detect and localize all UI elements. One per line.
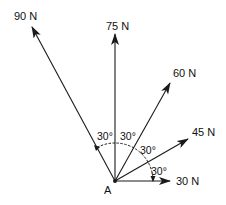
angle-label-60n-75n: 30° [120,131,136,142]
force-label-60n: 60 N [173,68,196,79]
force-label-45n: 45 N [192,127,215,138]
angle-label-45n-60n: 30° [140,145,156,156]
angle-label-30n-45n: 30° [151,166,167,177]
origin-label: A [104,185,111,196]
force-label-30n: 30 N [176,176,199,187]
angle-label-75n-90n: 30° [97,131,113,142]
force-label-75n: 75 N [106,21,129,32]
force-label-90n: 90 N [14,11,37,22]
force-90n-vector [32,27,115,181]
origin-point [113,179,117,183]
angle-arc-60n-75n [115,143,134,148]
